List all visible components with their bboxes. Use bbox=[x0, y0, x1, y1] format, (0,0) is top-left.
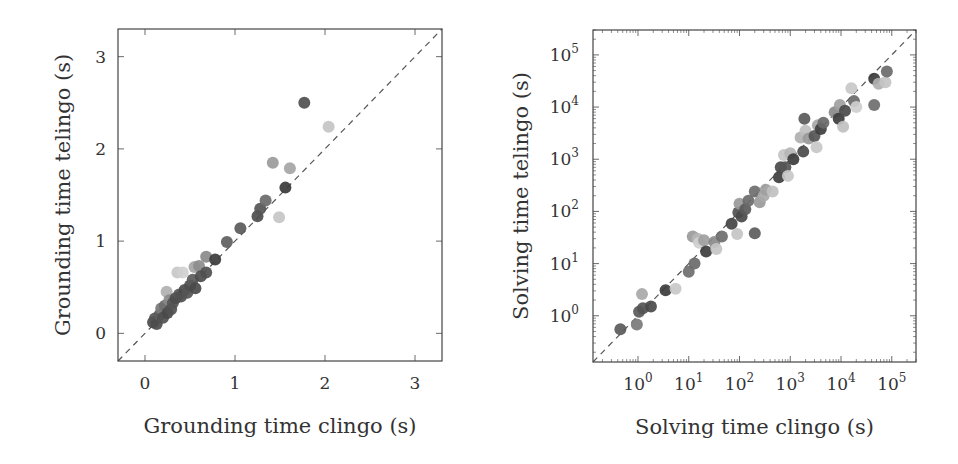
solving-time-scatter: 100101102103104105100101102103104105Solv… bbox=[479, 0, 958, 464]
data-point bbox=[797, 146, 809, 158]
data-point bbox=[798, 113, 810, 125]
y-tick-label: 0 bbox=[95, 323, 106, 343]
data-point bbox=[749, 227, 761, 239]
y-axis-label: Grounding time telingo (s) bbox=[51, 54, 75, 336]
data-point bbox=[881, 66, 893, 78]
x-axis-label: Grounding time clingo (s) bbox=[143, 414, 416, 438]
x-tick-label: 103 bbox=[776, 371, 805, 394]
data-points bbox=[147, 97, 335, 330]
data-point bbox=[787, 153, 799, 165]
solving-plot-canvas: 100101102103104105100101102103104105Solv… bbox=[479, 0, 958, 464]
data-point bbox=[177, 266, 189, 278]
data-point bbox=[209, 254, 221, 266]
data-point bbox=[234, 222, 246, 234]
x-tick-label: 105 bbox=[877, 371, 906, 394]
y-tick-label: 100 bbox=[550, 303, 579, 326]
data-point bbox=[850, 101, 862, 113]
data-point bbox=[279, 182, 291, 194]
x-tick-label: 101 bbox=[674, 371, 703, 394]
data-point bbox=[689, 258, 701, 270]
data-point bbox=[636, 288, 648, 300]
data-point bbox=[879, 76, 891, 88]
x-tick-label: 104 bbox=[826, 371, 856, 394]
data-point bbox=[817, 117, 829, 129]
data-point bbox=[670, 283, 682, 295]
data-point bbox=[189, 282, 201, 294]
x-tick-label: 1 bbox=[230, 373, 241, 393]
data-point bbox=[267, 157, 279, 169]
data-point bbox=[837, 121, 849, 133]
data-point bbox=[284, 162, 296, 174]
data-point bbox=[698, 234, 710, 246]
x-tick-label: 3 bbox=[410, 373, 421, 393]
data-point bbox=[260, 195, 272, 207]
data-point bbox=[839, 105, 851, 117]
y-tick-label: 103 bbox=[550, 146, 579, 169]
x-tick-label: 2 bbox=[320, 373, 331, 393]
data-point bbox=[221, 236, 233, 248]
data-point bbox=[811, 141, 823, 153]
data-point bbox=[273, 211, 285, 223]
data-point bbox=[700, 246, 712, 258]
y-tick-label: 102 bbox=[550, 198, 579, 221]
grounding-plot-canvas: 01230123Grounding time clingo (s)Groundi… bbox=[0, 0, 479, 464]
data-points bbox=[614, 66, 892, 336]
data-point bbox=[298, 97, 310, 109]
grounding-time-scatter: 01230123Grounding time clingo (s)Groundi… bbox=[0, 0, 479, 464]
data-point bbox=[726, 218, 738, 230]
y-tick-label: 101 bbox=[550, 251, 579, 274]
x-axis-label: Solving time clingo (s) bbox=[635, 415, 874, 439]
data-point bbox=[200, 266, 212, 278]
y-axis-label: Solving time telingo (s) bbox=[509, 72, 533, 320]
y-tick-label: 105 bbox=[550, 42, 579, 65]
data-point bbox=[323, 121, 335, 133]
y-tick-label: 2 bbox=[95, 139, 106, 159]
y-tick-label: 104 bbox=[550, 94, 580, 117]
data-point bbox=[767, 186, 779, 198]
data-point bbox=[782, 170, 794, 182]
data-point bbox=[868, 99, 880, 111]
data-point bbox=[716, 231, 728, 243]
data-point bbox=[731, 228, 743, 240]
data-point bbox=[631, 319, 643, 331]
data-point bbox=[614, 323, 626, 335]
data-point bbox=[645, 301, 657, 313]
y-tick-label: 1 bbox=[95, 231, 106, 251]
x-tick-label: 0 bbox=[140, 373, 151, 393]
data-point bbox=[845, 82, 857, 94]
x-tick-label: 100 bbox=[623, 371, 652, 394]
y-tick-label: 3 bbox=[95, 47, 106, 67]
x-tick-label: 102 bbox=[725, 371, 754, 394]
data-point bbox=[710, 243, 722, 255]
